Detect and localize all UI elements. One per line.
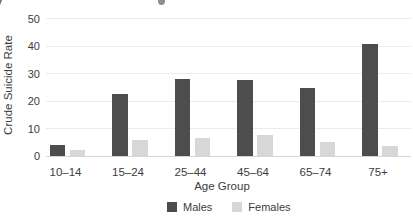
bar-males-25–44: [175, 79, 191, 156]
y-tick-label-50: 50: [14, 13, 40, 25]
gridline-y-50: [46, 18, 411, 19]
bar-females-75+: [382, 146, 398, 156]
bar-females-65–74: [320, 142, 336, 156]
y-tick-label-20: 20: [14, 95, 40, 107]
legend-swatch-females: [232, 202, 242, 212]
legend-item-males: Males: [167, 201, 212, 213]
bar-males-15–24: [112, 94, 128, 156]
legend-item-females: Females: [232, 201, 290, 213]
y-tick-label-0: 0: [14, 150, 40, 162]
legend: MalesFemales: [167, 201, 291, 213]
bar-males-65–74: [300, 88, 316, 155]
y-axis-title: Crude Suicide Rate: [2, 33, 14, 137]
bar-group-25–44: [175, 16, 211, 156]
grouped-bar-chart: 0102030405010–1415–2425–4445–6465–7475+ …: [0, 0, 413, 218]
legend-label-males: Males: [183, 201, 212, 213]
gridline-y-0: [46, 156, 411, 157]
bar-group-10–14: [50, 16, 86, 156]
y-tick-label-10: 10: [14, 123, 40, 135]
legend-swatch-males: [167, 202, 177, 212]
bar-group-45–64: [237, 16, 273, 156]
x-tick-label-65–74: 65–74: [288, 166, 344, 178]
bar-group-75+: [362, 16, 398, 156]
bar-males-75+: [362, 44, 378, 155]
bar-males-10–14: [50, 145, 66, 156]
bar-females-45–64: [257, 135, 273, 156]
x-tick-label-10–14: 10–14: [38, 166, 94, 178]
gridline-y-40: [46, 46, 411, 47]
bar-group-15–24: [112, 16, 148, 156]
legend-label-females: Females: [248, 201, 290, 213]
bar-males-45–64: [237, 80, 253, 156]
x-tick-label-25–44: 25–44: [163, 166, 219, 178]
y-tick-label-40: 40: [14, 40, 40, 52]
x-tick-label-75+: 75+: [350, 166, 406, 178]
gridline-y-10: [46, 128, 411, 129]
gridline-y-30: [46, 73, 411, 74]
x-tick-label-45–64: 45–64: [225, 166, 281, 178]
bar-females-25–44: [195, 138, 211, 156]
bar-females-10–14: [70, 150, 86, 156]
y-tick-label-30: 30: [14, 68, 40, 80]
gridline-y-20: [46, 101, 411, 102]
bar-females-15–24: [132, 140, 148, 155]
x-tick-label-15–24: 15–24: [100, 166, 156, 178]
x-axis-title: Age Group: [120, 180, 324, 192]
bar-group-65–74: [300, 16, 336, 156]
